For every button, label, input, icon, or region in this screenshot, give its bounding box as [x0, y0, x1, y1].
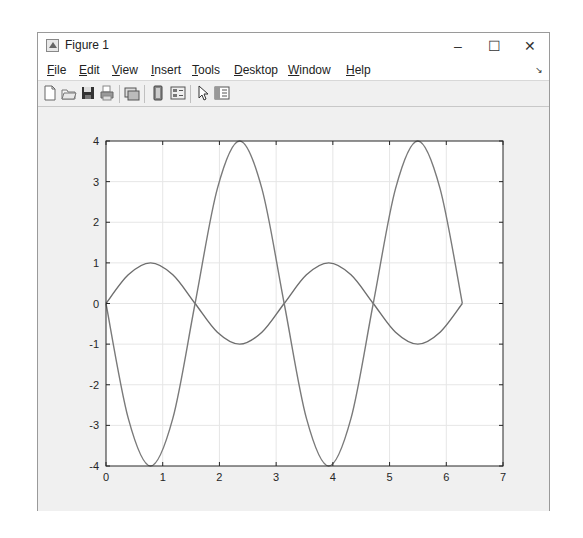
- y-tick-label: -2: [89, 379, 99, 391]
- menu-desktop-mnemonic: D: [234, 63, 243, 77]
- menu-file[interactable]: File: [47, 63, 66, 77]
- menu-edit-rest: dit: [87, 63, 100, 77]
- menu-tools[interactable]: Tools: [192, 63, 220, 77]
- link-plot-icon[interactable]: [124, 85, 140, 101]
- menu-window[interactable]: Window: [288, 63, 331, 77]
- toolbar-separator: [119, 85, 120, 103]
- figure-window: Figure 1 – ☐ ✕ File Edit View Insert Too…: [37, 32, 550, 511]
- menu-bar: File Edit View Insert Tools Desktop Wind…: [38, 59, 549, 81]
- y-tick-label: -1: [89, 338, 99, 350]
- y-tick-label: 4: [93, 135, 99, 147]
- y-tick-label: -4: [89, 460, 99, 472]
- title-bar[interactable]: Figure 1 – ☐ ✕: [38, 33, 549, 59]
- maximize-button[interactable]: ☐: [479, 35, 509, 57]
- y-tick-label: 2: [93, 216, 99, 228]
- menu-insert-rest: nsert: [154, 63, 181, 77]
- menu-help[interactable]: Help: [346, 63, 371, 77]
- x-tick-label: 0: [103, 471, 109, 483]
- new-file-icon[interactable]: [42, 85, 58, 101]
- y-tick-label: 0: [93, 298, 99, 310]
- figure-toolbar: [38, 81, 549, 107]
- y-tick-label: 3: [93, 176, 99, 188]
- minimize-button[interactable]: –: [443, 35, 473, 57]
- line-chart[interactable]: 01234567-4-3-2-101234: [38, 107, 549, 511]
- menu-edit[interactable]: Edit: [79, 63, 100, 77]
- menu-help-rest: elp: [355, 63, 371, 77]
- property-inspector-icon[interactable]: [214, 85, 230, 101]
- pointer-icon[interactable]: [195, 85, 211, 101]
- window-title: Figure 1: [65, 38, 109, 52]
- menu-insert[interactable]: Insert: [151, 63, 181, 77]
- dock-arrow-icon[interactable]: ↘: [535, 65, 543, 75]
- menu-edit-mnemonic: E: [79, 63, 87, 77]
- x-tick-label: 2: [216, 471, 222, 483]
- legend-icon[interactable]: [170, 85, 186, 101]
- menu-window-rest: indow: [299, 63, 330, 77]
- menu-view-mnemonic: V: [112, 63, 120, 77]
- save-icon[interactable]: [80, 85, 96, 101]
- menu-tools-rest: ools: [198, 63, 220, 77]
- colorbar-icon[interactable]: [150, 85, 166, 101]
- x-tick-label: 3: [273, 471, 279, 483]
- close-button[interactable]: ✕: [515, 35, 545, 57]
- menu-view-rest: iew: [120, 63, 138, 77]
- menu-help-mnemonic: H: [346, 63, 355, 77]
- x-tick-label: 5: [387, 471, 393, 483]
- x-tick-label: 6: [443, 471, 449, 483]
- toolbar-separator: [144, 85, 145, 103]
- menu-desktop[interactable]: Desktop: [234, 63, 278, 77]
- menu-file-rest: ile: [54, 63, 66, 77]
- x-tick-label: 4: [330, 471, 336, 483]
- figure-canvas[interactable]: 01234567-4-3-2-101234: [38, 107, 549, 511]
- x-tick-label: 1: [160, 471, 166, 483]
- menu-desktop-rest: esktop: [243, 63, 278, 77]
- folder-open-icon[interactable]: [61, 85, 77, 101]
- y-tick-label: 1: [93, 257, 99, 269]
- menu-view[interactable]: View: [112, 63, 138, 77]
- toolbar-separator: [190, 85, 191, 103]
- menu-window-mnemonic: W: [288, 63, 299, 77]
- matlab-figure-icon: [46, 39, 59, 52]
- x-tick-label: 7: [500, 471, 506, 483]
- y-tick-label: -3: [89, 419, 99, 431]
- print-icon[interactable]: [99, 85, 115, 101]
